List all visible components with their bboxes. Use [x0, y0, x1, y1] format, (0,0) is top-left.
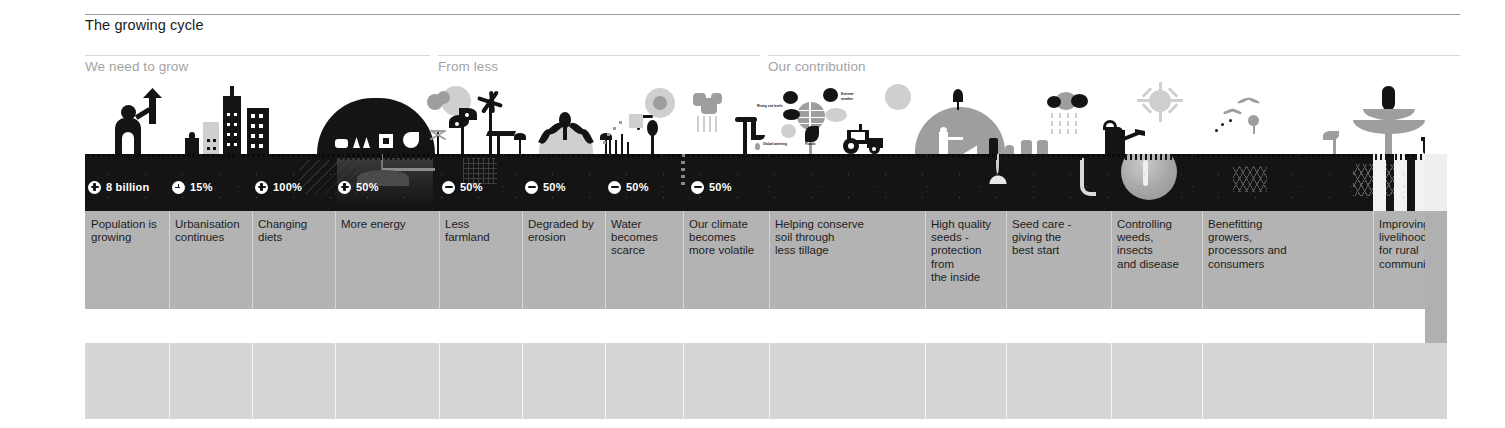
rain-cloud-icon: [1045, 84, 1101, 154]
column-label-cell: Our climate becomes more volatile: [683, 211, 765, 309]
column-label-cell: Benefitting growers, processors and cons…: [1202, 211, 1367, 309]
column-separator-low: [925, 343, 926, 419]
gutter-top-fill: [1425, 154, 1447, 211]
section-header: From less: [438, 55, 760, 81]
soil-erosion-icon: [607, 84, 699, 154]
stat-value: 50%: [460, 181, 483, 193]
title-divider: [85, 14, 1460, 15]
column-label-cell: High quality seeds - protection from the…: [925, 211, 1005, 309]
page-title: The growing cycle: [85, 17, 204, 33]
stat-badge: 50%: [442, 178, 483, 196]
column-label-cell: Less farmland: [439, 211, 522, 309]
changing-diets-dome-icon: [317, 84, 435, 154]
stat-value: 8 billion: [106, 181, 149, 193]
gutter-low-fill: [1425, 343, 1447, 419]
low-gray-band: [85, 343, 1460, 419]
column-label-cell: Water becomes scarce: [605, 211, 683, 309]
column-separator-low: [252, 343, 253, 419]
minus-icon: [525, 181, 538, 194]
stat-badge: 50%: [608, 178, 649, 196]
stat-value: 100%: [273, 181, 302, 193]
plus-icon: [338, 181, 351, 194]
section-divider: [768, 55, 1460, 56]
section-header: We need to grow: [85, 55, 430, 81]
column-separator-low: [335, 343, 336, 419]
section-header-row: We need to growFrom lessOur contribution: [85, 55, 1460, 81]
stats-strip: 8 billion15%100%50%50%50%50%50%: [85, 178, 1460, 200]
stat-badge: 50%: [691, 178, 732, 196]
column-label-cell: More energy: [335, 211, 435, 309]
corn-plant-icon: [1349, 84, 1429, 154]
column-label-text: Water becomes scarce: [611, 218, 677, 258]
minus-icon: [691, 181, 704, 194]
column-separator-low: [1373, 343, 1374, 419]
renewable-energy-icon: [437, 84, 517, 154]
column-label-cell: Changing diets: [252, 211, 335, 309]
minus-icon: [442, 181, 455, 194]
section-divider: [85, 55, 430, 56]
column-label-text: Urbanisation continues: [175, 218, 246, 244]
stat-badge: 8 billion: [88, 178, 149, 196]
column-label-cell: Helping conserve soil through less tilla…: [769, 211, 924, 309]
illustration-sky: Rising sea levels Extreme weather Global…: [85, 82, 1460, 154]
section-label: We need to grow: [85, 59, 188, 74]
page-header: The growing cycle: [85, 14, 1460, 36]
conservation-hill-icon: [881, 84, 1061, 154]
plus-icon: [255, 181, 268, 194]
column-label-text: High quality seeds - protection from the…: [931, 218, 999, 284]
column-label-text: Population is growing: [91, 218, 162, 244]
section-divider: [438, 55, 760, 56]
micro-label-rising-sea-levels: Rising sea levels: [757, 104, 783, 108]
column-label-text: Controlling weeds, insects and disease: [1117, 218, 1195, 271]
right-gutter: [1425, 82, 1460, 419]
column-separator-low: [605, 343, 606, 419]
section-label: Our contribution: [768, 59, 866, 74]
stat-value: 50%: [543, 181, 566, 193]
column-separator-low: [439, 343, 440, 419]
micro-label-global-warming: Global warming: [763, 142, 787, 146]
column-label-text: Benefitting growers, processors and cons…: [1208, 218, 1361, 271]
column-label-band: Population is growingUrbanisation contin…: [85, 211, 1460, 309]
column-label-text: More energy: [341, 218, 429, 231]
plus-icon: [88, 181, 101, 194]
stat-value: 15%: [190, 181, 213, 193]
watering-can-icon: [1095, 84, 1155, 154]
column-label-cell: Urbanisation continues: [169, 211, 252, 309]
stat-value: 50%: [626, 181, 649, 193]
column-separator-low: [1111, 343, 1112, 419]
column-separator-low: [683, 343, 684, 419]
stat-badge: 50%: [525, 178, 566, 196]
urbanisation-city-icon: [185, 84, 315, 154]
birds-icon: [1211, 84, 1301, 154]
column-label-text: Seed care - giving the best start: [1012, 218, 1095, 258]
infographic-board: Rising sea levels Extreme weather Global…: [85, 82, 1460, 419]
column-separator-low: [169, 343, 170, 419]
micro-label-floods: Floods: [805, 142, 815, 146]
stat-badge: 100%: [255, 178, 302, 196]
column-label-cell: Degraded by erosion: [522, 211, 605, 309]
column-label-text: Changing diets: [258, 218, 329, 244]
column-separator-low: [1202, 343, 1203, 419]
clock-icon: [172, 181, 185, 194]
column-label-text: Helping conserve soil through less tilla…: [775, 218, 918, 258]
column-label-text: Our climate becomes more volatile: [689, 218, 759, 258]
stat-badge: 15%: [172, 178, 213, 196]
column-label-cell: Controlling weeds, insects and disease: [1111, 211, 1201, 309]
column-label-text: Degraded by erosion: [528, 218, 599, 244]
stat-value: 50%: [709, 181, 732, 193]
column-label-cell: Population is growing: [85, 211, 168, 309]
column-label-cell: Seed care - giving the best start: [1006, 211, 1101, 309]
infographic-page: The growing cycle We need to growFrom le…: [0, 0, 1505, 428]
section-header: Our contribution: [768, 55, 1460, 81]
section-label: From less: [438, 59, 498, 74]
column-separator-low: [522, 343, 523, 419]
column-separator-low: [1006, 343, 1007, 419]
population-figure-icon: [107, 84, 177, 154]
column-separator-low: [769, 343, 770, 419]
stat-badge: 50%: [338, 178, 379, 196]
minus-icon: [608, 181, 621, 194]
stat-value: 50%: [356, 181, 379, 193]
less-farmland-icon: [517, 84, 615, 154]
column-label-text: Less farmland: [445, 218, 516, 244]
grass-fringe: [85, 154, 1460, 160]
